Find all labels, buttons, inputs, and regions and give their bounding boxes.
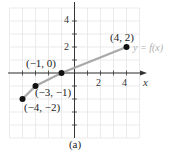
x-axis-label: x [142, 76, 148, 88]
function-label: y = f(x) [132, 42, 164, 54]
point-label-4-2: (4, 2) [110, 31, 134, 44]
function-graph: 2 4 2 4 x (−1, 0) (4, 2) (−3, −1) (−4, −… [0, 0, 172, 155]
x-tick-4: 4 [122, 77, 127, 88]
data-point [124, 44, 130, 50]
x-tick-2: 2 [96, 77, 101, 88]
data-point [59, 70, 65, 76]
y-tick-2: 2 [64, 41, 69, 52]
point-label-neg3-neg1: (−3, −1) [35, 86, 72, 99]
figure-caption: (a) [62, 138, 88, 150]
point-label-neg4-neg2: (−4, −2) [24, 101, 61, 114]
point-label-neg1-0: (−1, 0) [26, 57, 56, 70]
y-tick-4: 4 [64, 14, 69, 25]
